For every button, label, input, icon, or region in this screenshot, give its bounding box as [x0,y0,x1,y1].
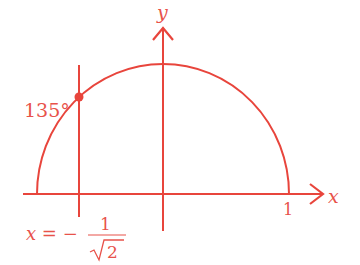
fraction-numerator: 1 [100,214,111,234]
x-axis-label: x [328,185,339,207]
tick-1-label: 1 [283,200,293,219]
vertical-line-equation: x = − 1 2 [26,214,126,262]
angle-label: 135° [24,99,70,121]
intersection-point [75,93,84,102]
fraction-denominator: 2 [107,242,118,262]
unit-circle-diagram: y x 1 135° x = − 1 2 [0,0,360,265]
equation-prefix: x = − [26,223,78,244]
y-axis-label: y [156,1,168,23]
